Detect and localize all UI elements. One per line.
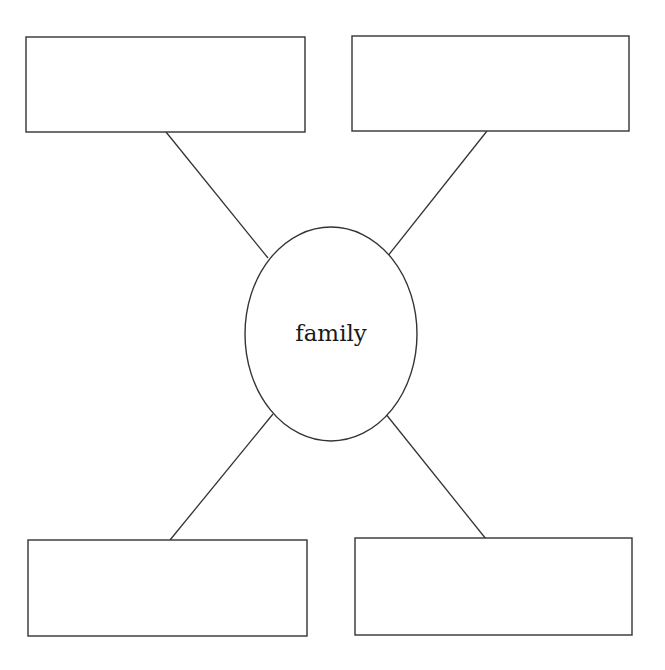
connector-top-left <box>166 132 268 258</box>
connector-bottom-right <box>385 413 486 539</box>
connector-top-right <box>387 131 487 257</box>
box-top-right[interactable] <box>352 36 629 131</box>
center-label: family <box>245 318 417 348</box>
connector-bottom-left <box>170 414 273 540</box>
box-top-left[interactable] <box>26 37 305 132</box>
box-bottom-left[interactable] <box>28 540 307 636</box>
box-bottom-right[interactable] <box>355 538 632 635</box>
